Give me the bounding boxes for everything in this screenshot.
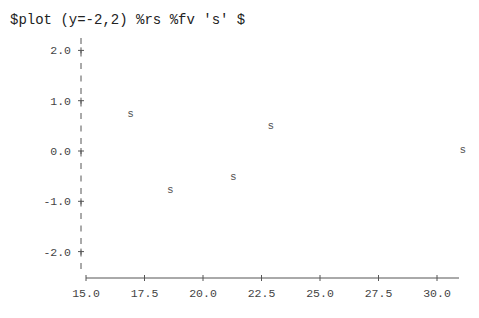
x-tick-label: 27.5 xyxy=(365,287,393,300)
data-point-marker: s xyxy=(127,108,134,120)
y-tick-label: 0.0 xyxy=(50,145,71,158)
x-tick-label: 25.0 xyxy=(306,287,334,300)
scatter-plot: 2.01.00.0-1.0-2.015.017.520.022.525.027.… xyxy=(0,0,479,318)
x-tick-label: 17.5 xyxy=(131,287,159,300)
x-tick-label: 22.5 xyxy=(248,287,276,300)
data-point-marker: s xyxy=(230,171,237,183)
x-tick-label: 15.0 xyxy=(72,287,100,300)
x-tick-label: 20.0 xyxy=(189,287,217,300)
y-tick-label: -1.0 xyxy=(43,195,71,208)
y-tick-label: 1.0 xyxy=(50,95,71,108)
data-point-marker: s xyxy=(268,120,275,132)
data-point-marker: s xyxy=(459,144,466,156)
y-tick-label: 2.0 xyxy=(50,44,71,57)
data-point-marker: s xyxy=(167,184,174,196)
x-tick-label: 30.0 xyxy=(423,287,451,300)
y-tick-label: -2.0 xyxy=(43,246,71,259)
